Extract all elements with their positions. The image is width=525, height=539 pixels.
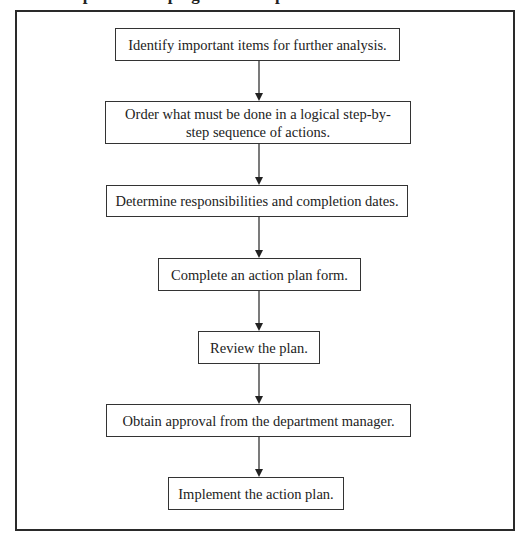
arrowhead-icon (255, 250, 263, 258)
arrowhead-icon (255, 396, 263, 404)
arrowhead-icon (255, 469, 263, 477)
arrowhead-icon (255, 177, 263, 185)
arrowhead-icon (255, 93, 263, 101)
arrows-layer (0, 0, 525, 539)
arrowhead-icon (255, 323, 263, 331)
